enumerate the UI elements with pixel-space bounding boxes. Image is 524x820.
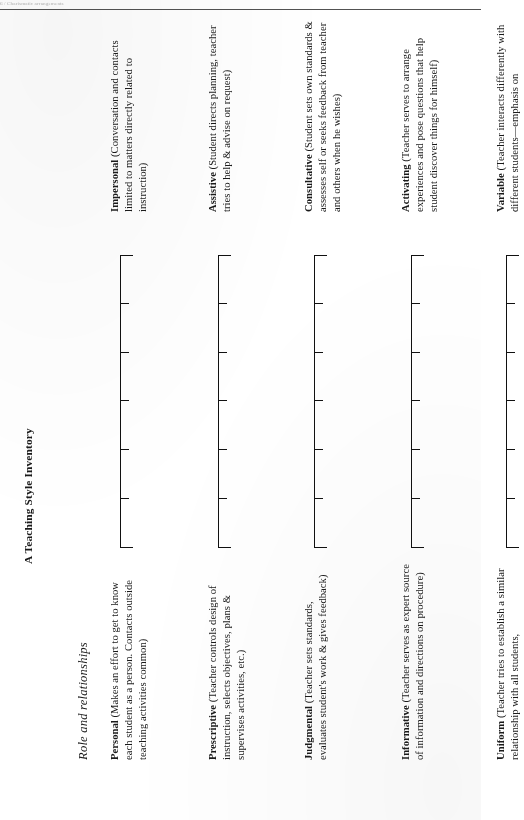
scale-axis [120,255,121,548]
scale-tick[interactable] [120,498,129,499]
page-title: A Teaching Style Inventory [22,428,34,564]
scale-left-term: Informative [400,705,411,760]
scale-end-cap-start [218,547,231,548]
scale-tick[interactable] [314,352,323,353]
scale-right-pole: Assistive (Student directs planning, tea… [206,16,234,212]
scale-axis [314,255,315,548]
scale-right-pole: Impersonal (Conversation and contacts li… [108,16,151,212]
rating-scale-line[interactable] [108,255,134,548]
scale-left-term: Personal [109,720,120,760]
scale-row: Personal (Makes an effort to get to know… [108,0,196,820]
scale-right-term: Variable [495,173,506,212]
scale-left-pole: Prescriptive (Teacher controls design of… [206,564,249,760]
scale-right-pole: Variable (Teacher interacts differently … [494,16,522,212]
scale-right-pole: Consultative (Student sets own standards… [302,16,345,212]
scale-row: Uniform (Teacher tries to establish a si… [494,0,524,820]
scale-tick[interactable] [506,303,515,304]
scale-tick[interactable] [314,498,323,499]
scale-tick[interactable] [218,352,227,353]
running-header-text: 6 / Charismatic arrangements [0,0,160,6]
scale-tick[interactable] [218,449,227,450]
scale-tick[interactable] [120,401,129,402]
scale-right-term: Consultative [303,154,314,212]
scale-end-cap-start [411,547,424,548]
scale-tick[interactable] [411,498,420,499]
scale-right-pole: Activating (Teacher serves to arrange ex… [399,16,442,212]
rating-scale-line[interactable] [206,255,232,548]
scale-tick[interactable] [411,449,420,450]
scale-row: Prescriptive (Teacher controls design of… [206,0,294,820]
scale-tick[interactable] [506,352,515,353]
scale-tick[interactable] [314,303,323,304]
scale-tick[interactable] [411,401,420,402]
scale-row: Judgmental (Teacher sets standards, eval… [302,0,390,820]
scale-left-pole: Personal (Makes an effort to get to know… [108,564,151,760]
scale-tick[interactable] [218,498,227,499]
scale-right-term: Assistive [207,172,218,212]
scale-left-pole: Judgmental (Teacher sets standards, eval… [302,564,330,760]
scale-end-cap-end [314,255,327,256]
scale-tick[interactable] [218,401,227,402]
scale-tick[interactable] [506,401,515,402]
scale-left-term: Uniform [495,721,506,760]
scale-tick[interactable] [120,449,129,450]
running-header: 6 / Charismatic arrangements [0,0,160,7]
scale-tick[interactable] [411,303,420,304]
scale-tick[interactable] [411,352,420,353]
header-rule [0,9,481,10]
rating-scale-line[interactable] [494,255,520,548]
section-title: Role and relationships [76,642,91,760]
scale-end-cap-end [506,255,519,256]
rating-scale-line[interactable] [302,255,328,548]
scale-end-cap-end [411,255,424,256]
rating-scale-line[interactable] [399,255,425,548]
scale-row: Informative (Teacher serves as expert so… [399,0,487,820]
scale-tick[interactable] [506,449,515,450]
scale-left-pole: Uniform (Teacher tries to establish a si… [494,564,522,760]
scale-axis [506,255,507,548]
scale-tick[interactable] [218,303,227,304]
scale-right-term: Impersonal [109,160,120,212]
scale-axis [218,255,219,548]
scale-end-cap-start [314,547,327,548]
scale-end-cap-end [218,255,231,256]
scale-axis [411,255,412,548]
scale-left-pole: Informative (Teacher serves as expert so… [399,564,427,760]
scale-end-cap-end [120,255,133,256]
scale-end-cap-start [506,547,519,548]
scale-tick[interactable] [314,449,323,450]
scale-tick[interactable] [314,401,323,402]
scale-tick[interactable] [120,303,129,304]
scale-left-term: Judgmental [303,706,314,760]
scale-tick[interactable] [120,352,129,353]
scale-end-cap-start [120,547,133,548]
scale-right-term: Activating [400,164,411,212]
scale-left-term: Prescriptive [207,705,218,760]
scale-tick[interactable] [506,498,515,499]
